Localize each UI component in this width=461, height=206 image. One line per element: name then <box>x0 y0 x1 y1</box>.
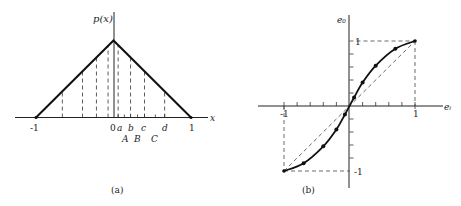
tick-label-zero: 0 <box>110 123 116 133</box>
level-label-c: C <box>151 134 158 144</box>
level-label-b: B <box>133 134 141 144</box>
endpoint <box>282 169 286 173</box>
sample-point <box>361 81 365 85</box>
threshold-label-c: c <box>141 123 146 133</box>
figure: p(x) x -1 0 1 a b c d A B C (a) e₀ eᵢ 1 … <box>0 0 461 206</box>
sample-point <box>321 144 325 148</box>
threshold-label-b: b <box>128 123 134 133</box>
y-axis-label: e₀ <box>337 15 346 25</box>
sample-point <box>393 47 397 51</box>
endpoint <box>413 39 417 43</box>
panel-b: e₀ eᵢ 1 -1 -1 1 (b) <box>258 15 451 195</box>
level-label-a: A <box>121 134 129 144</box>
sample-point <box>302 161 306 165</box>
tick-label-one: 1 <box>189 123 195 133</box>
caption-a: (a) <box>111 185 123 195</box>
y-axis-label: p(x) <box>93 13 113 24</box>
tick-label-neg-one: -1 <box>30 123 39 133</box>
endpoint-left <box>34 116 37 119</box>
threshold-label-d: d <box>162 123 168 133</box>
threshold-label-a: a <box>117 123 122 133</box>
tick-label-y-one: 1 <box>355 37 361 47</box>
x-axis-label: x <box>210 113 215 123</box>
panel-a: p(x) x -1 0 1 a b c d A B C (a) <box>15 12 215 195</box>
sample-point <box>334 127 338 131</box>
tick-label-y-neg-one: -1 <box>354 167 363 177</box>
endpoint-right <box>189 116 192 119</box>
sample-point <box>374 64 378 68</box>
sample-point <box>352 96 356 100</box>
caption-b: (b) <box>302 185 315 195</box>
sample-point <box>343 112 347 116</box>
tick-label-x-neg-one: -1 <box>280 109 289 119</box>
tick-label-x-one: 1 <box>413 109 419 119</box>
x-axis-label: eᵢ <box>444 102 451 112</box>
